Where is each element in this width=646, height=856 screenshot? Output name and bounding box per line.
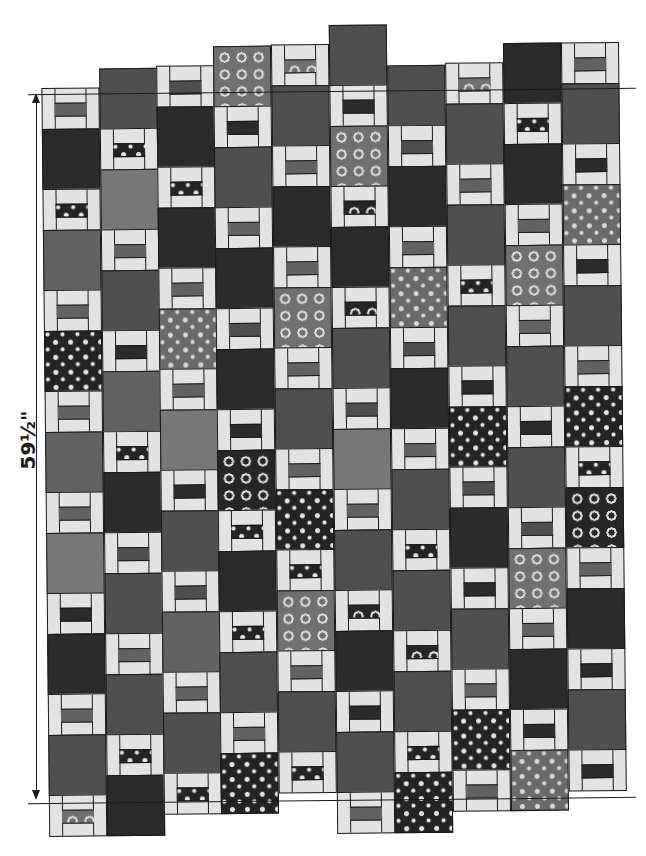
window-center-strip xyxy=(119,749,151,763)
window-frame-right xyxy=(86,189,99,229)
window-center-strip xyxy=(57,305,89,319)
window-block xyxy=(276,549,334,592)
square-block-circ-l xyxy=(505,245,564,307)
window-frame-right xyxy=(496,669,509,709)
window-block xyxy=(46,491,104,534)
square-block-mid xyxy=(447,204,506,266)
square-block-circ-l xyxy=(508,548,567,610)
square-block-mid xyxy=(446,103,505,165)
quilt-column-10 xyxy=(561,42,619,43)
window-block xyxy=(278,751,336,794)
window-block xyxy=(332,286,390,329)
window-center-strip xyxy=(176,686,208,700)
window-block xyxy=(101,229,159,272)
window-frame-right xyxy=(208,773,221,813)
window-block xyxy=(48,693,106,736)
window-frame-right xyxy=(90,492,103,532)
window-block xyxy=(562,143,620,186)
window-block xyxy=(47,592,105,635)
window-block xyxy=(450,567,508,610)
window-frame-right xyxy=(145,230,158,270)
window-frame-right xyxy=(146,331,159,371)
window-frame-right xyxy=(494,568,507,608)
window-center-strip xyxy=(230,424,262,438)
window-block xyxy=(334,488,392,531)
window-frame-right xyxy=(489,63,502,103)
window-frame-right xyxy=(377,388,390,428)
square-block-med xyxy=(43,229,102,291)
window-block xyxy=(507,406,565,449)
window-block xyxy=(330,185,388,228)
window-frame-right xyxy=(548,104,561,144)
square-block-dark xyxy=(107,775,166,837)
window-center-strip xyxy=(404,443,436,457)
window-frame-right xyxy=(610,548,623,588)
window-block xyxy=(163,671,221,714)
window-center-strip xyxy=(116,446,148,460)
window-frame-right xyxy=(434,328,447,368)
window-center-strip xyxy=(229,323,261,337)
square-block-dark xyxy=(390,368,449,430)
window-frame-right xyxy=(612,750,625,790)
square-block-mid xyxy=(329,24,388,86)
window-center-strip xyxy=(56,204,88,218)
square-block-dark xyxy=(388,166,447,228)
square-block-mid xyxy=(275,388,334,450)
window-center-strip xyxy=(292,766,324,780)
window-block xyxy=(157,166,215,209)
window-center-strip xyxy=(401,140,433,154)
window-frame-right xyxy=(322,752,335,792)
square-block-dark xyxy=(503,43,562,105)
window-block xyxy=(216,308,274,351)
square-block-star-l xyxy=(562,184,621,246)
window-block xyxy=(509,608,567,651)
square-block-circ-l xyxy=(274,287,333,349)
window-block xyxy=(447,264,505,307)
window-center-strip xyxy=(115,345,147,359)
window-block xyxy=(452,668,510,711)
window-frame-right xyxy=(204,470,217,510)
window-frame-right xyxy=(88,290,101,330)
window-center-strip xyxy=(574,57,606,71)
window-frame-right xyxy=(321,651,334,691)
square-block-med xyxy=(162,611,221,673)
window-block xyxy=(388,125,446,168)
window-frame-right xyxy=(260,309,273,349)
window-block xyxy=(446,163,504,206)
window-block xyxy=(219,611,277,654)
window-frame-right xyxy=(554,710,567,750)
window-frame-right xyxy=(435,429,448,469)
window-center-strip xyxy=(406,645,438,659)
window-center-strip xyxy=(575,158,607,172)
window-center-strip xyxy=(402,241,434,255)
window-block xyxy=(510,709,568,752)
window-center-strip xyxy=(285,160,317,174)
square-block-mid xyxy=(334,529,393,591)
window-frame-right xyxy=(201,167,214,207)
square-block-mid xyxy=(106,674,165,736)
window-block xyxy=(160,469,218,512)
window-block xyxy=(333,387,391,430)
square-block-star-d xyxy=(449,406,508,468)
square-block-dark xyxy=(335,630,394,692)
window-block xyxy=(49,794,107,837)
quilt-column-7 xyxy=(387,65,445,66)
window-center-strip xyxy=(232,626,264,640)
window-frame-right xyxy=(207,672,220,712)
window-frame-right xyxy=(552,508,565,548)
dimension-arrow-down-icon xyxy=(32,790,40,800)
square-block-dark xyxy=(215,248,274,310)
window-frame-right xyxy=(264,713,277,753)
window-block xyxy=(273,246,331,289)
window-block xyxy=(563,244,621,287)
square-block-dark xyxy=(158,207,217,269)
window-block xyxy=(391,428,449,471)
square-block-mid xyxy=(219,652,278,714)
window-block xyxy=(392,529,450,572)
square-block-mid xyxy=(448,305,507,367)
window-block xyxy=(161,570,219,613)
window-center-strip xyxy=(405,544,437,558)
window-block xyxy=(394,731,452,774)
window-frame-right xyxy=(91,593,104,633)
square-block-light xyxy=(100,169,159,231)
